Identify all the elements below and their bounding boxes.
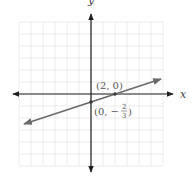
x-axis-label: x bbox=[180, 88, 187, 101]
svg-text:2: 2 bbox=[122, 103, 126, 111]
y-axis-label: y bbox=[87, 0, 95, 7]
point-x-intercept bbox=[113, 92, 117, 96]
svg-text:(0, −: (0, − bbox=[94, 106, 119, 117]
point-label-x-intercept: (2, 0) bbox=[96, 80, 123, 91]
svg-text:3: 3 bbox=[122, 112, 126, 120]
coordinate-plane: x y (2, 0) (0, − 2 3 ) bbox=[0, 0, 194, 176]
svg-text:): ) bbox=[128, 106, 132, 117]
point-label-y-intercept: (0, − 2 3 ) bbox=[94, 103, 132, 120]
point-y-intercept bbox=[89, 100, 93, 104]
